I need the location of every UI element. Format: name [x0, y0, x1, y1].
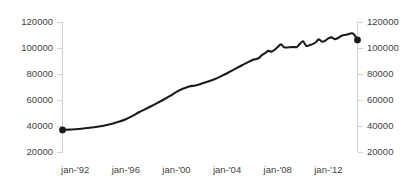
time-tick-label: jan-'00: [161, 164, 190, 175]
right-tick-label: 20000: [367, 146, 393, 157]
left-tick-label: 40000: [27, 120, 53, 131]
time-tick-label: jan-'92: [60, 164, 89, 175]
left-axis-tick-labels: 20000400006000080000100000120000: [21, 16, 53, 157]
time-tick-label: jan-'12: [313, 164, 342, 175]
right-tick-label: 40000: [367, 120, 393, 131]
time-tick-label: jan-'96: [111, 164, 140, 175]
series-end-marker: [354, 37, 361, 44]
left-tick-label: 120000: [21, 16, 53, 27]
time-tick-label: jan-'08: [263, 164, 292, 175]
right-tick-label: 80000: [367, 68, 393, 79]
right-tick-label: 60000: [367, 94, 393, 105]
chart-container: 20000400006000080000100000120000 2000040…: [0, 0, 414, 196]
right-axis-tick-labels: 20000400006000080000100000120000: [367, 16, 399, 157]
left-tick-label: 60000: [27, 94, 53, 105]
left-tick-label: 20000: [27, 146, 53, 157]
left-tick-label: 80000: [27, 68, 53, 79]
series-start-marker: [59, 126, 66, 133]
series-line: [63, 33, 358, 130]
left-tick-label: 100000: [21, 42, 53, 53]
time-tick-label: jan-'04: [212, 164, 241, 175]
time-axis-tick-labels: jan-'92jan-'96jan-'00jan-'04jan-'08jan-'…: [60, 164, 342, 175]
right-tick-label: 120000: [367, 16, 399, 27]
line-chart: 20000400006000080000100000120000 2000040…: [0, 0, 414, 196]
right-tick-label: 100000: [367, 42, 399, 53]
